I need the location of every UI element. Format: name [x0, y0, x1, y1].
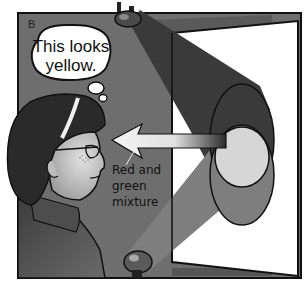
color-mixing-illustration: B [0, 0, 304, 286]
annotation-line-1: Red and [112, 163, 161, 177]
top-spotlight-icon [115, 2, 141, 27]
thought-bubble-line-1: This looks [33, 37, 110, 56]
annotation-line-2: green [112, 179, 147, 193]
annotation-line-3: mixture [112, 195, 159, 209]
thought-bubble-line-2: yellow. [45, 56, 96, 75]
panel-label: B [28, 18, 35, 30]
